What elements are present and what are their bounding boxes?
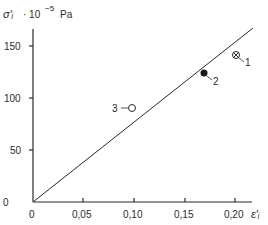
y-tick-label: 150 xyxy=(4,41,21,52)
data-point-1: 1 xyxy=(233,52,252,69)
point-label: 1 xyxy=(245,57,251,68)
y-axis-title: σ′ᵢ · 10 −5 Pa xyxy=(3,4,73,20)
x-tick-label: 0 xyxy=(29,209,35,220)
leader-line xyxy=(207,76,212,80)
x-tick-label: 0,10 xyxy=(123,209,143,220)
y-tick-label: 0 xyxy=(3,197,9,208)
data-point-3: 3 xyxy=(112,103,136,114)
y-tick-label: 50 xyxy=(10,145,22,156)
y-axis-symbol: σ′ᵢ xyxy=(3,8,14,20)
x-axis-title: ε′ᵢ xyxy=(251,208,260,220)
y-axis-unit: Pa xyxy=(60,9,73,20)
point-label: 3 xyxy=(112,103,118,114)
point-label: 2 xyxy=(213,76,219,87)
x-tick-label: 0,05 xyxy=(72,209,92,220)
chart-plot: σ′ᵢ · 10 −5 Pa 0 50 100 150 0 0,05 0,10 … xyxy=(0,0,268,225)
x-tick-label: 0,15 xyxy=(174,209,194,220)
x-axis-tick-labels: 0 0,05 0,10 0,15 0,20 xyxy=(29,209,244,220)
x-tick-label: 0,20 xyxy=(224,209,244,220)
y-axis-exponent: −5 xyxy=(45,4,55,13)
y-axis-multiplier: · 10 xyxy=(23,9,41,20)
data-point-2: 2 xyxy=(201,70,220,88)
leader-line xyxy=(239,58,244,62)
fit-line xyxy=(33,28,253,202)
y-tick-label: 100 xyxy=(4,93,21,104)
y-axis-tick-labels: 0 50 100 150 xyxy=(3,41,22,208)
